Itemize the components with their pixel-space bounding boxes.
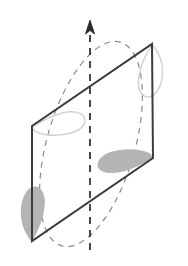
rotating-loop-diagram — [0, 0, 188, 266]
axis-arrowhead-icon — [85, 20, 94, 34]
rotation-axis-group — [85, 20, 94, 250]
front-markers-group — [21, 149, 153, 241]
figure-container — [0, 0, 188, 266]
blob-front-bottom-right-fill — [98, 149, 153, 173]
blob-back-left-outline — [32, 112, 84, 135]
rotation-orbit-group — [19, 30, 162, 258]
quadrilateral-loop-group — [32, 44, 153, 241]
quadrilateral-loop — [32, 44, 153, 241]
rotation-orbit-ellipse — [19, 30, 162, 258]
